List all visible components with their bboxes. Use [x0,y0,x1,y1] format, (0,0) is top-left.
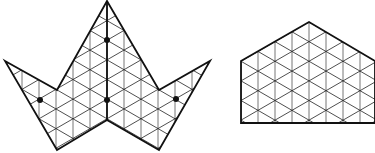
grid-diagonal-line [235,0,375,60]
grid-diagonal-line [235,0,375,40]
grid-diagonal-line [235,0,375,21]
grid-diagonal-line [235,136,375,153]
grid-diagonal-line [0,116,215,153]
marked-dot [37,97,43,103]
grid-diagonal-line [235,0,375,45]
grid-diagonal-line [235,19,375,100]
house-triangular-grid [224,0,375,153]
marked-dot [104,37,110,43]
grid-diagonal-line [235,4,375,85]
crown-figure [0,0,215,153]
grid-diagonal-line [235,0,375,6]
grid-diagonal-line [235,77,375,153]
grid-diagonal-line [0,135,215,153]
diagram-canvas [0,0,375,153]
grid-diagonal-line [235,38,375,119]
grid-diagonal-line [0,136,215,153]
house-figure [224,0,375,153]
grid-diagonal-line [235,43,375,124]
grid-diagonal-line [235,0,375,1]
grid-diagonal-line [235,0,375,80]
grid-diagonal-line [235,97,375,153]
grid-diagonal-line [235,23,375,104]
grid-diagonal-line [235,62,375,143]
grid-diagonal-line [235,58,375,139]
marked-dot [173,96,179,102]
grid-diagonal-line [235,121,375,153]
grid-diagonal-line [235,0,375,25]
grid-diagonal-line [235,141,375,153]
marked-dot [104,97,110,103]
